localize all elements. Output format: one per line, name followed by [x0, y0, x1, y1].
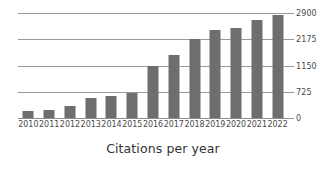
- bar-slot: [60, 13, 81, 118]
- bar: [231, 28, 242, 118]
- y-tick-mark: [288, 92, 294, 93]
- bar: [168, 55, 179, 119]
- bar: [64, 106, 75, 118]
- x-axis-label: 2013: [81, 119, 101, 130]
- bar-slot: [18, 13, 39, 118]
- x-axis-label: 2015: [122, 119, 142, 130]
- citations-bar-chart: 2900217511507250 20102011201220132014201…: [0, 0, 326, 169]
- y-axis-label: 2900: [296, 9, 317, 18]
- bars: [18, 13, 288, 118]
- bar: [23, 111, 34, 118]
- bar-slot: [80, 13, 101, 118]
- bar: [189, 39, 200, 118]
- bar-slot: [246, 13, 267, 118]
- bar-slot: [267, 13, 288, 118]
- x-axis-label: 2019: [205, 119, 225, 130]
- bar-slot: [122, 13, 143, 118]
- x-axis-label: 2014: [101, 119, 121, 130]
- bar-slot: [39, 13, 60, 118]
- bar: [127, 93, 138, 118]
- x-axis-label: 2022: [268, 119, 288, 130]
- bar: [85, 98, 96, 118]
- x-axis-label: 2010: [18, 119, 38, 130]
- bar: [251, 20, 262, 118]
- y-axis-label: 2175: [296, 35, 317, 44]
- bar: [147, 66, 158, 119]
- bar: [106, 96, 117, 118]
- y-tick-mark: [288, 66, 294, 67]
- x-axis-label: 2016: [143, 119, 163, 130]
- bar-slot: [163, 13, 184, 118]
- y-tick-mark: [288, 118, 294, 119]
- y-axis-label: 1150: [296, 61, 317, 70]
- bar: [44, 110, 55, 118]
- x-axis-label: 2017: [164, 119, 184, 130]
- x-axis-label: 2020: [226, 119, 246, 130]
- bar-slot: [101, 13, 122, 118]
- bar-slot: [205, 13, 226, 118]
- bar: [272, 15, 283, 118]
- bar-slot: [226, 13, 247, 118]
- x-axis-label: 2018: [184, 119, 204, 130]
- bar-slot: [143, 13, 164, 118]
- y-tick-mark: [288, 39, 294, 40]
- bar: [210, 30, 221, 118]
- x-axis: 2010201120122013201420152016201720182019…: [18, 119, 288, 132]
- bar-slot: [184, 13, 205, 118]
- y-axis-label: 725: [296, 87, 312, 96]
- x-axis-label: 2011: [39, 119, 59, 130]
- y-tick-mark: [288, 13, 294, 14]
- plot-area: [18, 13, 288, 118]
- x-axis-label: 2021: [247, 119, 267, 130]
- y-axis-label: 0: [296, 114, 301, 123]
- x-axis-label: 2012: [60, 119, 80, 130]
- chart-title: Citations per year: [0, 141, 326, 157]
